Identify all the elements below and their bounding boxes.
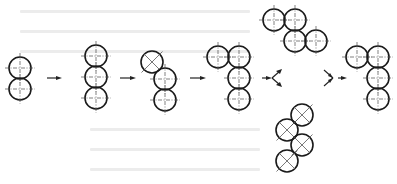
crosshair-circle-icon: [224, 84, 254, 114]
crosshair-circle-icon: [5, 74, 35, 104]
crosshair-circle-icon: [363, 84, 393, 114]
right-arrow-icon: [338, 76, 347, 80]
split-arrow-icon: [272, 69, 282, 87]
crosshair-circle-icon: [81, 83, 111, 113]
right-arrow-icon: [120, 76, 136, 80]
circle-group-g-bottom: [276, 104, 313, 172]
diagram-canvas: [0, 0, 397, 184]
crosshair-circle-icon: [301, 26, 331, 56]
circle-group-g1: [5, 53, 35, 104]
right-arrow-icon: [47, 76, 62, 80]
circle-group-g5: [342, 42, 393, 114]
merge-arrow-icon: [324, 70, 333, 86]
circle-group-g-top: [259, 5, 331, 56]
x-circle-icon: [276, 150, 298, 172]
circle-group-g4: [203, 42, 254, 114]
right-arrow-icon: [262, 76, 272, 80]
right-arrow-icon: [190, 76, 206, 80]
circle-sequence-diagram: [0, 0, 397, 184]
circle-group-g3: [141, 51, 180, 115]
crosshair-circle-icon: [150, 85, 180, 115]
circle-group-g2: [81, 41, 111, 113]
